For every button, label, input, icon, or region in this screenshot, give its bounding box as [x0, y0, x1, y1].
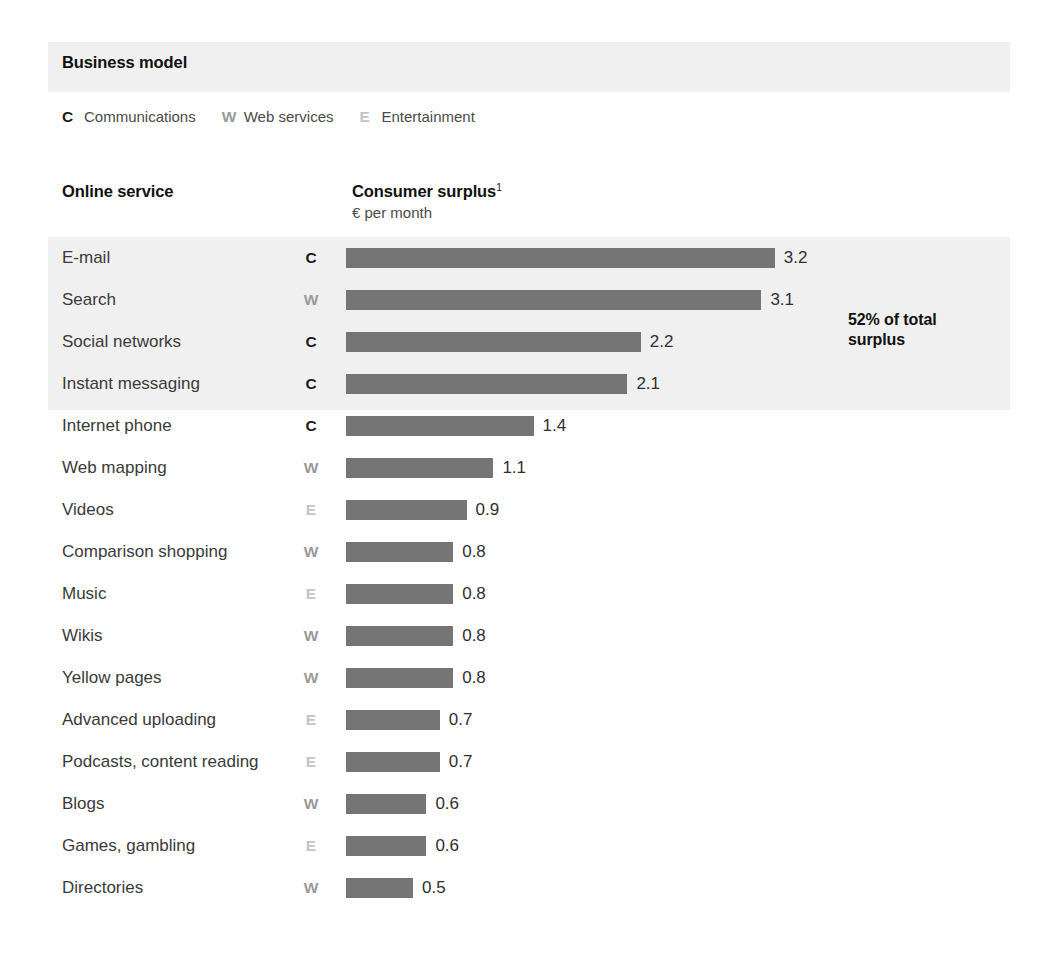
row-bar-value-label: 0.6: [435, 794, 459, 814]
table-row: Yellow pagesW0.8: [0, 657, 1057, 699]
row-business-model-key: E: [302, 501, 320, 519]
table-row: SearchW3.1: [0, 279, 1057, 321]
row-service-label: Music: [62, 584, 106, 604]
table-row: BlogsW0.6: [0, 783, 1057, 825]
table-row: Advanced uploadingE0.7: [0, 699, 1057, 741]
row-service-label: Wikis: [62, 626, 103, 646]
row-service-label: Social networks: [62, 332, 181, 352]
table-row: MusicE0.8: [0, 573, 1057, 615]
row-business-model-key: W: [302, 459, 320, 477]
business-model-heading: Business model: [62, 53, 187, 72]
row-bar-group: 0.9: [346, 500, 499, 520]
business-model-legend: CCommunicationsWWeb servicesEEntertainme…: [62, 108, 475, 126]
row-bar-group: 3.1: [346, 290, 794, 310]
row-bar-group: 1.4: [346, 416, 566, 436]
column-header-surplus-text: Consumer surplus: [352, 182, 496, 200]
row-business-model-key: W: [302, 879, 320, 897]
row-business-model-key: E: [302, 585, 320, 603]
column-header-surplus-units: € per month: [352, 204, 502, 221]
row-bar: [346, 584, 453, 604]
exhibit-root: Business model CCommunicationsWWeb servi…: [0, 0, 1057, 980]
row-business-model-key: C: [302, 417, 320, 435]
row-bar: [346, 542, 453, 562]
table-row: Instant messagingC2.1: [0, 363, 1057, 405]
table-row: Comparison shoppingW0.8: [0, 531, 1057, 573]
row-bar-value-label: 1.4: [543, 416, 567, 436]
row-bar-group: 0.8: [346, 668, 486, 688]
row-bar-value-label: 2.1: [636, 374, 660, 394]
legend-label-e: Entertainment: [381, 108, 474, 125]
row-bar: [346, 878, 413, 898]
row-business-model-key: C: [302, 249, 320, 267]
table-row: Games, gamblingE0.6: [0, 825, 1057, 867]
row-bar-value-label: 1.1: [502, 458, 526, 478]
row-service-label: Podcasts, content reading: [62, 752, 259, 772]
row-service-label: Web mapping: [62, 458, 167, 478]
row-bar: [346, 500, 467, 520]
row-bar-group: 0.8: [346, 626, 486, 646]
row-bar-value-label: 0.6: [435, 836, 459, 856]
row-bar-group: 0.6: [346, 836, 459, 856]
row-bar: [346, 458, 493, 478]
legend-key-w: W: [222, 108, 239, 126]
table-row: DirectoriesW0.5: [0, 867, 1057, 909]
row-service-label: Blogs: [62, 794, 105, 814]
row-bar-value-label: 0.8: [462, 668, 486, 688]
row-bar-group: 3.2: [346, 248, 807, 268]
footnote-marker: 1: [496, 182, 501, 193]
row-bar-group: 2.2: [346, 332, 673, 352]
row-bar: [346, 794, 426, 814]
row-bar: [346, 626, 453, 646]
row-bar-value-label: 0.8: [462, 626, 486, 646]
row-business-model-key: E: [302, 837, 320, 855]
row-service-label: Directories: [62, 878, 143, 898]
row-bar-group: 0.7: [346, 710, 472, 730]
row-business-model-key: W: [302, 669, 320, 687]
table-row: VideosE0.9: [0, 489, 1057, 531]
table-row: Social networksC2.2: [0, 321, 1057, 363]
row-service-label: Games, gambling: [62, 836, 195, 856]
row-bar: [346, 374, 627, 394]
legend-key-c: C: [62, 108, 79, 126]
row-business-model-key: C: [302, 333, 320, 351]
row-service-label: Comparison shopping: [62, 542, 227, 562]
row-bar-value-label: 0.9: [476, 500, 500, 520]
row-bar: [346, 836, 426, 856]
row-bar-value-label: 0.8: [462, 542, 486, 562]
row-business-model-key: W: [302, 627, 320, 645]
legend-key-e: E: [359, 108, 376, 126]
row-bar-value-label: 2.2: [650, 332, 674, 352]
row-bar-group: 1.1: [346, 458, 526, 478]
row-bar: [346, 248, 775, 268]
row-business-model-key: W: [302, 291, 320, 309]
row-bar-value-label: 3.2: [784, 248, 808, 268]
table-row: WikisW0.8: [0, 615, 1057, 657]
row-bar-group: 0.8: [346, 542, 486, 562]
row-service-label: Search: [62, 290, 116, 310]
row-service-label: Instant messaging: [62, 374, 200, 394]
row-bar: [346, 710, 440, 730]
row-bar-value-label: 0.7: [449, 752, 473, 772]
business-model-band: [48, 42, 1010, 92]
table-row: E-mailC3.2: [0, 237, 1057, 279]
row-business-model-key: W: [302, 543, 320, 561]
legend-entry-entertainment: EEntertainment: [359, 108, 474, 126]
row-bar: [346, 416, 534, 436]
row-service-label: Yellow pages: [62, 668, 162, 688]
row-bar-value-label: 0.5: [422, 878, 446, 898]
row-bar: [346, 752, 440, 772]
row-bar: [346, 332, 641, 352]
row-bar-group: 0.5: [346, 878, 446, 898]
column-header-surplus-title: Consumer surplus1: [352, 182, 502, 201]
row-service-label: Videos: [62, 500, 114, 520]
legend-entry-web-services: WWeb services: [222, 108, 334, 126]
row-bar-value-label: 0.7: [449, 710, 473, 730]
row-bar-group: 2.1: [346, 374, 660, 394]
row-service-label: E-mail: [62, 248, 110, 268]
table-row: Internet phoneC1.4: [0, 405, 1057, 447]
row-bar: [346, 668, 453, 688]
table-row: Web mappingW1.1: [0, 447, 1057, 489]
row-bar-value-label: 0.8: [462, 584, 486, 604]
column-header-consumer-surplus: Consumer surplus1 € per month: [352, 182, 502, 221]
row-service-label: Internet phone: [62, 416, 172, 436]
